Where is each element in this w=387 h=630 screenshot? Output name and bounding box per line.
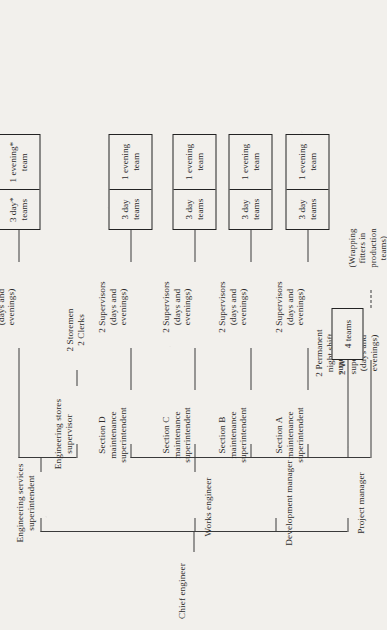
node-section-d-superintendent: Section D maintenance superintendent (96, 390, 128, 480)
node-engineering-services-supervisors: 2 Supervisors (days and evenings) (0, 262, 16, 352)
node-works-engineer: Works engineer (202, 462, 213, 552)
box-cell: 3 day teams (109, 190, 151, 229)
connector-eng-services-to-teams (18, 230, 19, 262)
node-section-b-superintendent: Section B maintenance superintendent (216, 390, 248, 480)
node-section-c-superintendent: Section C maintenance superintendent (160, 390, 192, 480)
connector-project-manager (347, 518, 348, 532)
connector-section-a (307, 444, 308, 458)
connector-section-c (194, 444, 195, 458)
connector-eng-services-supervisors (18, 348, 19, 458)
node-section-c-supervisors: 2 Supervisors (days and evenings) (160, 262, 192, 352)
box-cell: 4 teams (332, 309, 362, 359)
box-cell: 3 day* teams (0, 190, 39, 229)
node-section-a-supervisors: 2 Supervisors (days and evenings) (273, 262, 305, 352)
box-cell: 1 evening team (109, 135, 151, 190)
connector-section-c-to-teams (194, 230, 195, 262)
connector-section-d-to-teams (130, 230, 131, 262)
node-chief-engineer: Chief engineer (176, 554, 187, 628)
box-cell: 3 day teams (229, 190, 271, 229)
connector-section-c-to-supervisors (194, 348, 195, 390)
connector-section-d (130, 444, 131, 458)
org-chart-canvas: Chief engineer Project manager Developme… (0, 0, 387, 630)
node-section-a-superintendent: Section A maintenance superintendent (273, 390, 305, 480)
node-engineering-services-superintendent: Engineering services superintendent (14, 448, 35, 558)
box-section-c-teams: 3 day teams 1 evening team (172, 134, 216, 230)
node-section-b-supervisors: 2 Supervisors (days and evenings) (216, 262, 248, 352)
box-section-d-teams: 3 day teams 1 evening team (108, 134, 152, 230)
node-engineering-stores-supervisor: Engineering stores supervisor (52, 388, 73, 480)
connector-eng-services-to-spine (40, 458, 41, 472)
connector-section-b-to-teams (250, 230, 251, 262)
connector-works-engineer (194, 518, 195, 532)
connector-section-a-to-teams (307, 230, 308, 262)
box-cell: 1 evening team (229, 135, 271, 190)
box-section-b-teams: 3 day teams 1 evening team (228, 134, 272, 230)
box-cell: 3 day teams (286, 190, 328, 229)
connector-works-engineer-to-spine (194, 458, 195, 472)
connector-section-a-to-supervisors (307, 348, 308, 390)
connector-root-stub (193, 532, 194, 552)
box-cell: 3 day teams (173, 190, 215, 229)
connector-eng-stores-staff (76, 370, 77, 386)
connector-wrapping-dashed (370, 290, 371, 308)
connector-section-b-to-supervisors (250, 348, 251, 390)
connector-development-manager (275, 518, 276, 532)
connector-engineering-services (40, 518, 41, 532)
node-section-d-supervisors: 2 Supervisors (days and evenings) (96, 262, 128, 352)
box-night-shift-teams: 4 teams (331, 308, 363, 360)
connector-section-d-to-supervisors (130, 348, 131, 390)
connector-section-b (250, 444, 251, 458)
box-section-a-teams: 3 day teams 1 evening team (285, 134, 329, 230)
node-project-manager: Project manager (355, 458, 366, 548)
box-cell: 1 evening* team (0, 135, 39, 190)
node-wrapping-fitters-note: (Wrapping fitters in production teams) (346, 208, 387, 288)
box-cell: 1 evening team (286, 135, 328, 190)
connector-eng-stores (76, 444, 77, 458)
box-cell: 1 evening team (173, 135, 215, 190)
box-engineering-services-teams: 3 day* teams 1 evening* team (0, 134, 40, 230)
connector-level1-spine (40, 531, 347, 532)
node-storemen-clerks: 2 Storemen 2 Clerks (64, 292, 85, 368)
